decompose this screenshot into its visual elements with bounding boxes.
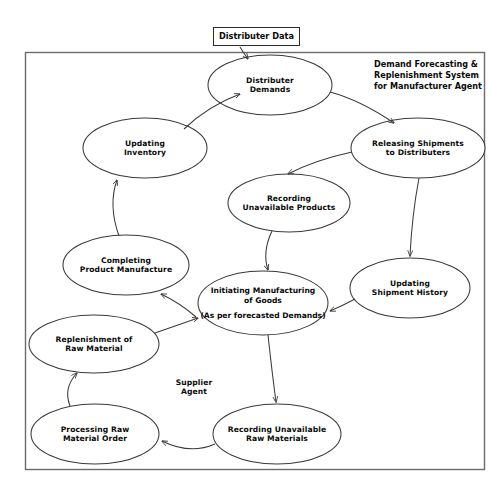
label-processing-raw-material-order: Processing Raw Material Order <box>31 404 159 464</box>
edge-releasing-shipments-to-recording-unavailable-products <box>288 152 352 174</box>
edge-recording-unavailable-products-to-initiating-manufacturing <box>266 231 272 270</box>
label-recording-unavailable-products: Recording Unavailable Products <box>228 174 350 232</box>
distributer-data-label: Distributer Data <box>219 31 294 41</box>
label-supplier-agent: Supplier Agent <box>150 372 238 402</box>
label-updating-shipment-history: Updating Shipment History <box>350 258 470 318</box>
edge-replenishment-raw-material-to-initiating-manufacturing <box>155 318 198 333</box>
diagram-canvas: Distributer Data Demand Forecasting & Re… <box>0 0 502 494</box>
edge-processing-raw-material-order-to-replenishment-raw-material <box>68 373 77 406</box>
edge-initiating-manufacturing-to-completing-product-manufacture <box>161 294 196 317</box>
edge-recording-unavailable-raw-materials-to-processing-raw-material-order <box>162 441 215 449</box>
distributer-data-box[interactable]: Distributer Data <box>213 27 300 46</box>
edge-initiating-manufacturing-to-recording-unavailable-raw-materials <box>268 335 276 402</box>
label-initiating-manufacturing: Initiating Manufacturing of Goods (As pe… <box>198 271 328 335</box>
label-initiating-manufacturing-line1: Initiating Manufacturing of Goods <box>211 286 316 304</box>
label-updating-inventory: Updating Inventory <box>83 118 207 178</box>
edge-completing-product-manufacture-to-updating-inventory <box>113 180 119 236</box>
label-replenishment-raw-material: Replenishment of Raw Material <box>29 315 159 373</box>
label-releasing-shipments: Releasing Shipments to Distributers <box>351 118 485 178</box>
label-initiating-manufacturing-line2: (As per forecasted Demands) <box>200 311 325 320</box>
label-distributer-demands: Distributer Demands <box>208 55 332 115</box>
label-completing-product-manufacture: Completing Product Manufacture <box>63 235 189 295</box>
edge-releasing-shipments-to-updating-shipment-history <box>410 178 419 256</box>
system-title: Demand Forecasting & Replenishment Syste… <box>374 59 486 92</box>
label-recording-unavailable-raw-materials: Recording Unavailable Raw Materials <box>213 404 341 464</box>
